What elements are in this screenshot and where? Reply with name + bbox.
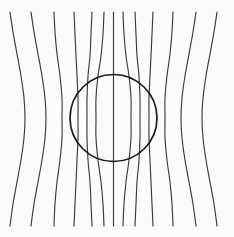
- field-line-canvas: [0, 0, 234, 237]
- field-line-figure: [0, 0, 234, 237]
